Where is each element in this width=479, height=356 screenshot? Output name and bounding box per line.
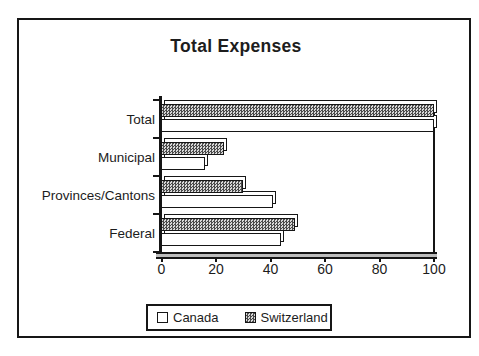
x-axis-label-60: 60 — [303, 261, 347, 277]
bar-face — [161, 157, 205, 170]
canada-swatch-icon — [157, 312, 168, 323]
bar-switzerland-federal — [161, 218, 295, 231]
bar-face — [161, 142, 224, 155]
bar-switzerland-municipal — [161, 142, 224, 155]
y-axis-tick — [153, 175, 161, 177]
x-axis-label-100: 100 — [412, 261, 456, 277]
category-labels: TotalMunicipalProvinces/CantonsFederal — [14, 100, 155, 252]
bar-face — [161, 119, 434, 132]
x-axis-floor — [156, 252, 437, 259]
x-axis-label-40: 40 — [249, 261, 293, 277]
y-axis-tick — [153, 137, 161, 139]
bar-face — [161, 218, 295, 231]
plot-area — [161, 100, 435, 252]
category-label-provinces-cantons: Provinces/Cantons — [14, 176, 155, 214]
bar-switzerland-total — [161, 104, 434, 117]
x-axis-label-20: 20 — [194, 261, 238, 277]
bar-face — [161, 195, 273, 208]
x-axis-label-0: 0 — [140, 261, 184, 277]
y-axis-tick — [153, 99, 161, 101]
bar-canada-provinces-cantons — [161, 195, 273, 208]
legend-item-canada: Canada — [157, 310, 219, 325]
legend-label-canada: Canada — [173, 310, 219, 325]
bar-switzerland-provinces-cantons — [161, 180, 243, 193]
y-axis-tick — [153, 251, 161, 253]
legend-item-switzerland: Switzerland — [245, 310, 328, 325]
switzerland-swatch-icon — [245, 312, 256, 323]
bar-face — [161, 180, 243, 193]
category-label-municipal: Municipal — [14, 138, 155, 176]
legend-label-switzerland: Switzerland — [261, 310, 328, 325]
y-axis-tick — [153, 213, 161, 215]
category-label-federal: Federal — [14, 214, 155, 252]
bar-face — [161, 104, 434, 117]
bar-canada-municipal — [161, 157, 205, 170]
bar-canada-federal — [161, 233, 281, 246]
bar-canada-total — [161, 119, 434, 132]
category-label-total: Total — [14, 100, 155, 138]
x-axis-label-80: 80 — [358, 261, 402, 277]
legend: Canada Switzerland — [146, 304, 332, 331]
bar-face — [161, 233, 281, 246]
chart-title: Total Expenses — [0, 36, 472, 57]
